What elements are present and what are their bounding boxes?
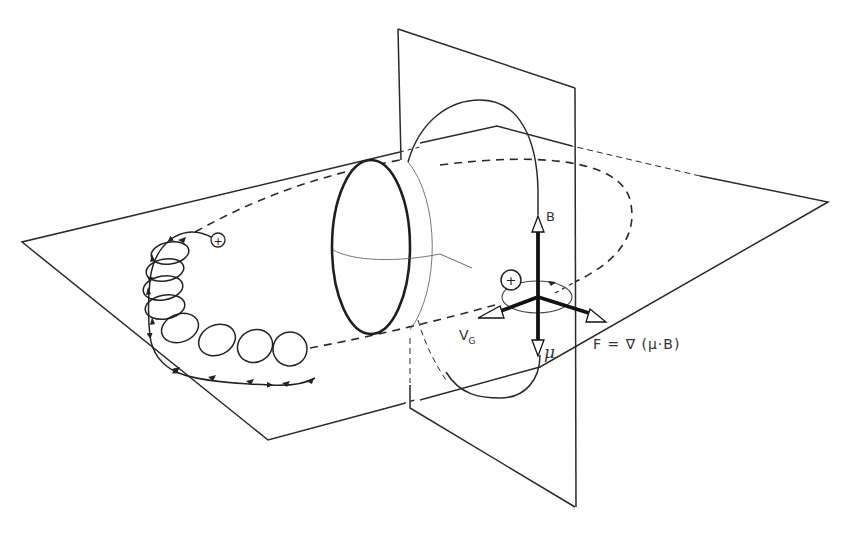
equatorial-plane (22, 126, 828, 440)
vector-triad (478, 216, 606, 356)
force-vector-arrowhead (586, 309, 606, 322)
force-equation-label: F = ∇ (μ·B) (593, 337, 680, 351)
gyration-helix (141, 232, 315, 387)
vg-vector (498, 297, 538, 312)
B-label: B (546, 210, 555, 223)
vg-label: VG (459, 328, 476, 346)
svg-text:+: + (506, 273, 517, 288)
planet-sphere (332, 160, 472, 334)
vg-vector-arrowhead (478, 306, 504, 318)
force-vector (538, 297, 592, 314)
svg-text:+: + (213, 235, 222, 248)
mu-label: μ (544, 344, 555, 361)
vg-label-main: V (459, 327, 469, 343)
B-vector-arrowhead (532, 216, 544, 232)
dipole-field-line (408, 100, 540, 398)
charge-marker-guiding-center: + (501, 270, 521, 290)
sphere-meridian (408, 162, 432, 330)
charge-marker-gyrating: + (211, 233, 225, 248)
mu-vector-arrowhead (532, 340, 544, 356)
drift-orbit-dashed (195, 159, 632, 348)
vg-label-subscript: G (469, 336, 476, 346)
dipole-drift-diagram: + + (0, 0, 846, 533)
